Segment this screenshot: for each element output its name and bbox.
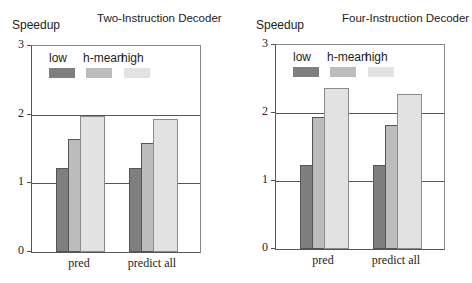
gridline — [32, 115, 200, 116]
y-axis-label: Speedup — [12, 18, 60, 32]
bar-high-pred — [80, 116, 105, 252]
legend-swatch-h-mean — [86, 68, 112, 78]
x-category-label: pred — [39, 256, 119, 271]
y-tick-mark — [271, 112, 275, 113]
y-tick-label: 2 — [256, 104, 268, 119]
y-tick-label: 3 — [256, 36, 268, 51]
legend-label-high: high — [365, 50, 388, 64]
y-tick-mark — [271, 44, 275, 45]
legend-label-low: low — [293, 50, 311, 64]
bar-high-pred — [324, 88, 349, 249]
y-tick-label: 1 — [12, 174, 24, 189]
y-tick-mark — [27, 45, 31, 46]
y-axis-label: Speedup — [256, 18, 304, 32]
bar-high-predict-all — [153, 119, 178, 252]
y-tick-mark — [27, 251, 31, 252]
legend-label-low: low — [49, 51, 67, 65]
y-tick-mark — [27, 182, 31, 183]
y-tick-mark — [271, 248, 275, 249]
chart-two-instruction: Speedup Two-Instruction Decoder lowh-mea… — [0, 0, 236, 283]
legend-swatch-low — [293, 67, 319, 77]
x-category-label: predict all — [356, 253, 436, 268]
y-tick-label: 2 — [12, 106, 24, 121]
legend-swatch-low — [49, 68, 75, 78]
legend-swatch-h-mean — [330, 67, 356, 77]
y-tick-mark — [27, 114, 31, 115]
plot-area: lowh-meanhigh — [275, 44, 445, 250]
plot-area: lowh-meanhigh — [31, 45, 201, 253]
y-tick-label: 0 — [256, 240, 268, 255]
legend-label-high: high — [121, 51, 144, 65]
legend-swatch-high — [368, 67, 394, 77]
legend-label-h-mean: h-mean — [327, 50, 368, 64]
legend-swatch-high — [124, 68, 150, 78]
x-category-label: predict all — [112, 256, 192, 271]
legend-label-h-mean: h-mean — [83, 51, 124, 65]
y-tick-label: 3 — [12, 37, 24, 52]
chart-title: Two-Instruction Decoder — [97, 12, 222, 24]
chart-four-instruction: Speedup Four-Instruction Decoder lowh-me… — [236, 0, 472, 283]
x-category-label: pred — [283, 253, 363, 268]
bar-high-predict-all — [397, 94, 422, 249]
chart-title: Four-Instruction Decoder — [342, 12, 469, 24]
y-tick-mark — [271, 180, 275, 181]
y-tick-label: 1 — [256, 172, 268, 187]
y-tick-label: 0 — [12, 243, 24, 258]
